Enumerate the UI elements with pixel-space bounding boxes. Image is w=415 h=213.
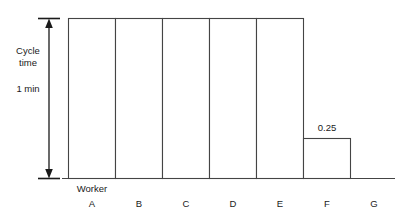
x-axis-label-a: A [89,198,96,209]
bar-worker-b [116,19,163,179]
chart-canvas: Cycle time 1 min 0.25 Worker A B C D E F… [0,0,415,213]
x-axis-label-b: B [136,198,142,209]
scale-arrow-head-down [45,169,53,179]
bar-worker-c [163,19,210,179]
x-axis-label-c: C [183,198,190,209]
x-axis-label-d: D [230,198,237,209]
cycle-time-bar-chart: Cycle time 1 min 0.25 Worker A B C D E F… [0,0,415,213]
data-label-worker-f: 0.25 [318,122,337,133]
y-axis-unit-label: 1 min [16,83,39,94]
y-axis-label-line2: time [19,57,37,68]
bar-worker-a [69,19,116,179]
scale-arrow-head-up [45,19,53,29]
cycle-time-scale-arrow [38,19,60,179]
x-axis-worker-prefix-label: Worker [77,183,107,194]
x-axis-label-f: F [324,198,330,209]
bar-worker-f [304,139,351,179]
x-axis-label-g: G [370,198,377,209]
bar-worker-e [257,19,304,179]
x-axis-label-e: E [277,198,283,209]
y-axis-label-line1: Cycle [16,45,40,56]
bar-worker-d [210,19,257,179]
